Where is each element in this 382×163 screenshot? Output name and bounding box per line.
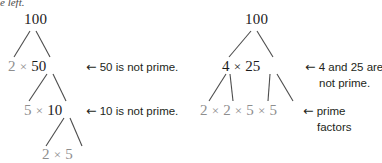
arrow-left-icon: ← xyxy=(86,59,96,74)
right-annotation-1: ← 4 and 25 are not prime. xyxy=(305,59,382,91)
left-tree-level2-left-factor: 2 xyxy=(8,58,16,74)
left-tree-level3-left-factor: 5 xyxy=(24,102,32,118)
right-annotation-1-line1: 4 and 25 are xyxy=(319,61,382,73)
arrow-left-icon: ← xyxy=(86,103,96,118)
right-tree-level2-right-factor: 25 xyxy=(245,58,260,74)
left-tree-level4-left-factor: 2 xyxy=(42,146,50,162)
right-tree-root: 100 xyxy=(245,12,268,27)
right-tree-level3: 2 × 2 × 5 × 5 xyxy=(200,103,277,118)
multiplication-sign: × xyxy=(20,59,28,74)
right-annotation-2: ← prime factors xyxy=(303,103,352,135)
left-annotation-1: ← 50 is not prime. xyxy=(86,59,178,76)
right-annotation-2-line1: prime xyxy=(317,105,346,117)
left-annotation-2-text: 10 is not prime. xyxy=(100,105,179,117)
right-tree-level2: 4 × 25 xyxy=(222,59,261,74)
arrow-left-icon: ← xyxy=(303,103,313,118)
left-tree-level4-right-factor: 5 xyxy=(65,146,73,162)
left-tree-level3-right-factor: 10 xyxy=(47,102,62,118)
left-tree-level2: 2 × 50 xyxy=(8,59,47,74)
left-annotation-2: ← 10 is not prime. xyxy=(86,103,178,120)
multiplication-sign: × xyxy=(36,103,44,118)
right-annotation-2-line2: factors xyxy=(303,120,352,136)
multiplication-sign: × xyxy=(258,103,266,118)
left-annotation-1-text: 50 is not prime. xyxy=(100,61,179,73)
arrow-left-icon: ← xyxy=(305,59,315,74)
right-tree-prime-factor-4: 5 xyxy=(269,102,277,118)
right-tree-level2-left-factor: 4 xyxy=(222,58,230,74)
right-annotation-1-line2: not prime. xyxy=(305,76,382,92)
left-tree-level4: 2 × 5 xyxy=(42,147,73,162)
multiplication-sign: × xyxy=(235,103,243,118)
multiplication-sign: × xyxy=(234,59,242,74)
multiplication-sign: × xyxy=(212,103,220,118)
factor-tree-figure: e left. 100 2 × 50 5 xyxy=(0,0,382,163)
right-tree-prime-factor-3: 5 xyxy=(246,102,254,118)
cutoff-caption: e left. xyxy=(0,0,24,8)
left-tree-level3: 5 × 10 xyxy=(24,103,63,118)
right-tree-prime-factor-1: 2 xyxy=(200,102,208,118)
left-tree-level2-right-factor: 50 xyxy=(31,58,46,74)
multiplication-sign: × xyxy=(54,147,62,162)
left-tree-root: 100 xyxy=(24,12,47,27)
right-tree-prime-factor-2: 2 xyxy=(223,102,231,118)
